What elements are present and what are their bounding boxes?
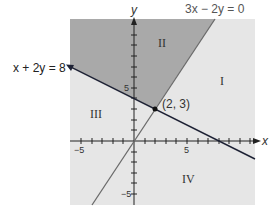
x-axis-arrow-icon bbox=[253, 138, 261, 144]
x-tick-neg5: −5 bbox=[74, 145, 84, 155]
intersection-point bbox=[153, 107, 158, 112]
y-tick-5: 5 bbox=[124, 83, 129, 93]
region-label-iv: IV bbox=[182, 172, 195, 186]
equation-x-plus-2y: x + 2y = 8 bbox=[13, 61, 66, 75]
y-tick-neg5: −5 bbox=[121, 189, 131, 199]
region-label-ii: II bbox=[158, 36, 166, 50]
equation-3x-minus-2y: 3x − 2y = 0 bbox=[185, 2, 245, 16]
region-label-iii: III bbox=[90, 107, 102, 121]
region-label-i: I bbox=[220, 74, 224, 88]
x-tick-5: 5 bbox=[184, 145, 189, 155]
coordinate-plane: y x −5 5 5 −5 3x − 2y = 0 x + 2y = 8 (2,… bbox=[0, 0, 275, 216]
intersection-label: (2, 3) bbox=[162, 97, 190, 111]
x-axis-label: x bbox=[261, 134, 269, 148]
y-axis-label: y bbox=[130, 3, 138, 17]
